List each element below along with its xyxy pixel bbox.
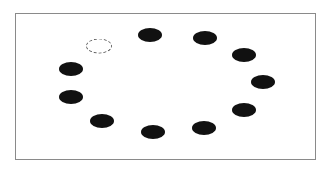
filled-ellipse (90, 114, 114, 128)
filled-ellipse (232, 48, 256, 62)
filled-ellipse (59, 90, 83, 104)
filled-ellipse (251, 75, 275, 89)
filled-ellipse (141, 125, 165, 139)
empty-ellipse-slot (86, 39, 112, 54)
filled-ellipse (232, 103, 256, 117)
filled-ellipse (192, 121, 216, 135)
filled-ellipse (193, 31, 217, 45)
diagram-canvas (0, 0, 328, 173)
filled-ellipse (59, 62, 83, 76)
filled-ellipse (138, 28, 162, 42)
